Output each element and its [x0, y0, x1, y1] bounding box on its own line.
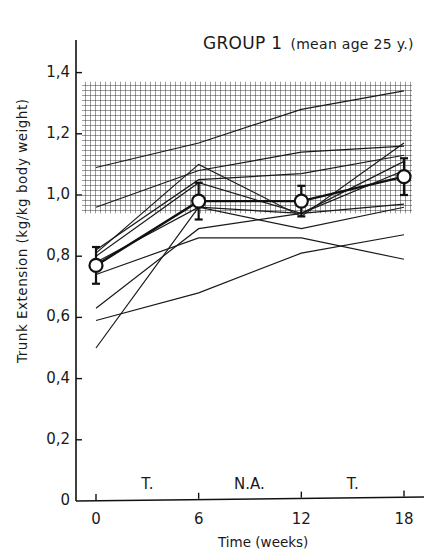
title-main: GROUP 1 — [203, 33, 282, 53]
normal-range-band — [82, 82, 412, 214]
hatched-band — [82, 82, 412, 214]
x-tick-label: 6 — [179, 510, 219, 528]
x-axis-label: Time (weeks) — [218, 534, 308, 550]
subject-line — [96, 204, 404, 348]
chart-canvas — [0, 0, 433, 559]
y-tick-label: 0 — [36, 491, 70, 509]
x-axis-line — [76, 497, 424, 501]
mean-marker — [192, 195, 205, 208]
mean-marker — [398, 170, 411, 183]
x-tick-label: 12 — [281, 510, 321, 528]
y-tick-label: 1,2 — [36, 124, 70, 142]
y-tick-label: 0,2 — [36, 430, 70, 448]
subject-line — [96, 235, 404, 321]
y-tick-label: 1,0 — [36, 185, 70, 203]
phase-annotation: T. — [141, 475, 153, 493]
phase-annotation: N.A. — [234, 475, 265, 493]
x-tick-label: 0 — [76, 510, 116, 528]
x-tick-label: 18 — [384, 510, 424, 528]
y-tick-label: 0,4 — [36, 369, 70, 387]
y-tick-label: 0,6 — [36, 307, 70, 325]
y-tick-label: 0,8 — [36, 246, 70, 264]
y-tick-label: 1,4 — [36, 63, 70, 81]
chart-title: GROUP 1(mean age 25 y.) — [203, 33, 414, 53]
mean-marker — [90, 259, 103, 272]
phase-annotation: T. — [347, 475, 359, 493]
mean-marker — [295, 195, 308, 208]
subject-line — [96, 207, 404, 262]
y-axis-label: Trunk Extension (kg/kg body weight) — [14, 123, 30, 363]
title-subtitle: (mean age 25 y.) — [290, 36, 413, 52]
